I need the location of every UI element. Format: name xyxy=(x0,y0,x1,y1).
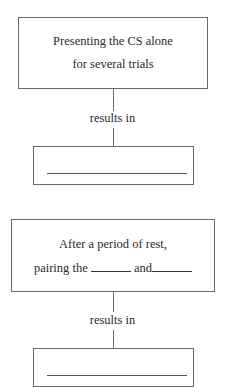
flow1-connector-top xyxy=(113,89,114,111)
flow1-step-line2: for several trials xyxy=(19,57,207,71)
flow2-step-line2-prefix: pairing the xyxy=(34,261,88,275)
flow2-result-box xyxy=(33,348,194,387)
flow2-answer-blank[interactable] xyxy=(47,375,187,376)
flow2-step-line1: After a period of rest, xyxy=(12,237,214,251)
flow1-step-line1: Presenting the CS alone xyxy=(19,34,207,48)
flow2-connector-top xyxy=(113,292,114,312)
flow1-step-box: Presenting the CS alone for several tria… xyxy=(18,17,208,89)
flow1-result-box xyxy=(33,146,194,185)
flow2-blank1[interactable] xyxy=(91,261,131,272)
flow1-answer-blank[interactable] xyxy=(47,173,187,174)
flow2-connector-bottom xyxy=(113,330,114,348)
flow2-step-line2: pairing the and xyxy=(12,261,214,275)
flow1-connector-label: results in xyxy=(0,111,225,125)
flow1-connector-bottom xyxy=(113,128,114,146)
flow2-blank2[interactable] xyxy=(152,261,192,272)
flow2-step-box: After a period of rest, pairing the and xyxy=(11,219,215,292)
flow2-connector-label: results in xyxy=(0,313,225,327)
flow2-step-line2-middle: and xyxy=(134,261,152,275)
